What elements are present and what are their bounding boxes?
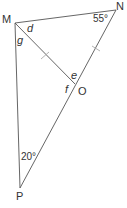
vertex-label-m: M (2, 13, 11, 25)
angle-label-e: e (71, 69, 77, 81)
geometry-diagram: M N O P d g e f 55° 20° (0, 0, 127, 208)
vertex-label-p: P (16, 190, 23, 202)
angle-label-d: d (27, 22, 34, 34)
angle-label-g: g (17, 34, 24, 46)
vertex-label-o: O (78, 85, 87, 97)
angle-label-p-20: 20° (21, 151, 36, 162)
vertex-label-n: N (116, 0, 124, 12)
segment-mp (15, 23, 20, 188)
angle-label-n-55: 55° (93, 13, 108, 24)
angle-label-f: f (65, 83, 69, 95)
segment-mo (15, 23, 75, 84)
